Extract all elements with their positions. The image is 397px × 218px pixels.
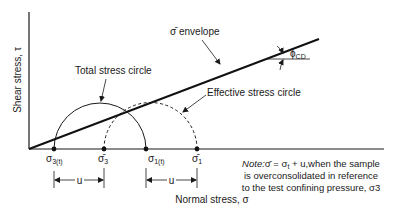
envelope-leader — [202, 40, 220, 64]
note-line-1: Note:σ̄ = σt + u,when the sample — [242, 158, 380, 170]
point-sigma-3-bar — [102, 147, 107, 152]
mohr-diagram: Shear stress, τ ϕCD σ̄ envelope Total st… — [0, 0, 397, 218]
label-sigma-3t: σ3(t) — [46, 153, 63, 166]
label-sigma-1t: σ1(t) — [148, 153, 165, 166]
left-u-label: u — [77, 175, 83, 186]
effective-stress-circle — [104, 103, 197, 149]
y-axis-label: Shear stress, τ — [12, 47, 23, 113]
right-u-label: u — [169, 175, 175, 186]
note-line-2: is overconsolidated in reference — [244, 170, 378, 181]
effective-circle-label: Effective stress circle — [207, 87, 301, 98]
angle-arrow-top — [277, 46, 283, 53]
label-sigma-1-bar: σ̄1 — [192, 153, 202, 165]
point-sigma-1-bar — [195, 147, 200, 152]
x-axis-label: Normal stress, σ — [175, 194, 249, 205]
point-sigma-1t — [144, 147, 149, 152]
total-circle-label: Total stress circle — [75, 65, 152, 76]
note-line-3: to the test confining pressure, σ3 — [242, 182, 380, 193]
point-sigma-3t — [52, 147, 57, 152]
label-sigma-3-bar: σ̄3 — [98, 153, 108, 165]
envelope-label: σ̄ envelope — [170, 26, 220, 37]
effective-circle-leader — [183, 95, 206, 112]
angle-label: ϕCD — [290, 48, 306, 60]
angle-arrow-bottom — [280, 60, 283, 70]
total-circle-leader — [101, 79, 106, 101]
